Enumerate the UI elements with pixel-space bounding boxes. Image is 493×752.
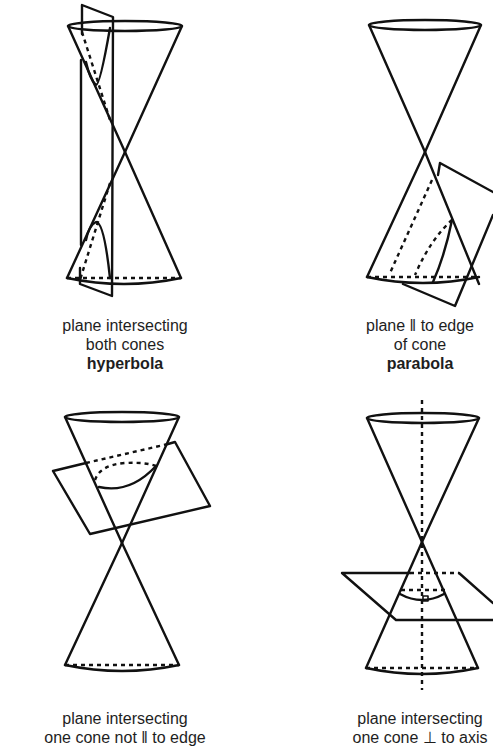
hyperbola-figure — [67, 5, 182, 296]
ellipse-figure — [53, 412, 210, 671]
caption-parabola: plane ‖ to edge of cone parabola — [320, 316, 493, 373]
conic-name: parabola — [320, 354, 493, 373]
caption-line: both cones — [25, 335, 225, 354]
circle-figure — [342, 400, 493, 690]
caption-line: plane intersecting — [320, 709, 493, 728]
caption-line: plane intersecting — [25, 316, 225, 335]
conic-sections-diagram — [0, 0, 493, 752]
caption-line: plane ‖ to edge — [320, 316, 493, 335]
caption-ellipse: plane intersecting one cone not ‖ to edg… — [0, 709, 250, 747]
caption-line: one cone ⊥ to axis — [320, 728, 493, 747]
caption-line: of cone — [320, 335, 493, 354]
conic-name: hyperbola — [25, 354, 225, 373]
caption-line: one cone not ‖ to edge — [0, 728, 250, 747]
parabola-figure — [367, 20, 493, 306]
caption-hyperbola: plane intersecting both cones hyperbola — [25, 316, 225, 373]
caption-line: plane intersecting — [0, 709, 250, 728]
caption-circle: plane intersecting one cone ⊥ to axis — [320, 709, 493, 747]
